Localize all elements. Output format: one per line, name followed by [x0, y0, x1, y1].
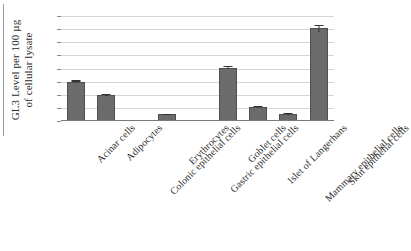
- bar-group: [304, 16, 334, 121]
- x-category-label: Skin epithelial cells: [346, 122, 411, 187]
- bar: [219, 68, 237, 121]
- y-axis-title-line-1: GL3 Level per 100 µg: [9, 8, 22, 133]
- bar-group: [213, 16, 243, 121]
- page-edge-rule: [3, 4, 4, 136]
- y-axis-title-line-2: of cellular lysate: [22, 8, 35, 133]
- bar: [97, 95, 115, 121]
- x-axis-category-labels: Acinar cellsAdipocytesColonic epithelial…: [61, 122, 334, 242]
- bar-group: [182, 16, 212, 121]
- error-bar-cap: [223, 66, 232, 67]
- bar-group: [152, 16, 182, 121]
- bar-group: [122, 16, 152, 121]
- y-axis-title: GL3 Level per 100 µg of cellular lysate: [9, 8, 35, 133]
- bar-group: [273, 16, 303, 121]
- error-bar-cap: [254, 106, 263, 107]
- error-bar-cap: [284, 113, 293, 114]
- error-bar-cap: [163, 114, 172, 115]
- x-axis-line: [61, 120, 334, 122]
- bar-group: [243, 16, 273, 121]
- error-bar-cap: [72, 80, 81, 81]
- bars: [61, 16, 334, 121]
- bar-group: [91, 16, 121, 121]
- error-bar-cap: [314, 25, 323, 26]
- plot-area: 876543210: [61, 16, 334, 121]
- bar: [67, 82, 85, 121]
- bar-group: [61, 16, 91, 121]
- bar: [310, 28, 328, 121]
- error-bar-cap: [102, 94, 111, 95]
